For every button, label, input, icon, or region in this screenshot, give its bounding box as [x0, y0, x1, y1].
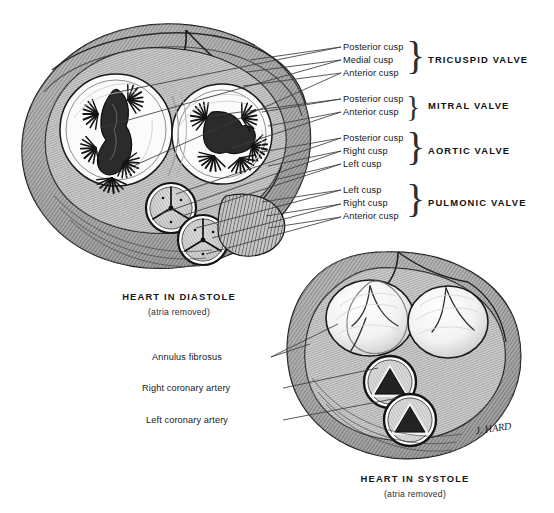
- mitral-valve-systole: [408, 286, 488, 358]
- brace-pulmonic: }: [406, 179, 425, 219]
- group-label-mitral-valve: MITRAL VALVE: [428, 100, 510, 111]
- group-label-aortic-valve: AORTIC VALVE: [428, 145, 510, 156]
- caption-diastole-subtitle: (atria removed): [54, 307, 304, 317]
- label-mitral-posterior-cusp: Posterior cusp: [343, 94, 403, 104]
- tricuspid-valve-systole: [326, 280, 414, 356]
- illustration-page: J. HARD: [0, 0, 554, 513]
- heart-valve-artwork: J. HARD: [0, 0, 554, 513]
- label-tricuspid-medial-cusp: Medial cusp: [343, 55, 393, 65]
- label-aortic-right-cusp: Right cusp: [343, 146, 388, 156]
- caption-diastole-title: HEART IN DIASTOLE: [122, 291, 236, 302]
- heart-diastole-drawing: [22, 24, 310, 268]
- brace-tricuspid: }: [406, 36, 425, 76]
- label-pulmonic-left-cusp: Left cusp: [343, 185, 381, 195]
- label-pulmonic-right-cusp: Right cusp: [343, 198, 388, 208]
- caption-heart-in-diastole: HEART IN DIASTOLE (atria removed): [54, 286, 304, 317]
- label-mitral-anterior-cusp: Anterior cusp: [343, 107, 399, 117]
- brace-aortic: }: [406, 127, 425, 167]
- label-annulus-fibrosus: Annulus fibrosus: [152, 352, 222, 362]
- label-right-coronary-artery: Right coronary artery: [142, 383, 230, 393]
- group-label-tricuspid-valve: TRICUSPID VALVE: [428, 54, 528, 65]
- heart-systole-drawing: J. HARD: [287, 252, 520, 459]
- brace-mitral: }: [406, 91, 420, 121]
- label-tricuspid-posterior-cusp: Posterior cusp: [343, 42, 403, 52]
- label-tricuspid-anterior-cusp: Anterior cusp: [343, 68, 399, 78]
- group-label-pulmonic-valve: PULMONIC VALVE: [428, 197, 527, 208]
- label-pulmonic-anterior-cusp: Anterior cusp: [343, 211, 399, 221]
- caption-systole-title: HEART IN SYSTOLE: [361, 473, 470, 484]
- label-aortic-posterior-cusp: Posterior cusp: [343, 133, 403, 143]
- label-aortic-left-cusp: Left cusp: [343, 159, 381, 169]
- caption-systole-subtitle: (atria removed): [290, 489, 540, 499]
- label-left-coronary-artery: Left coronary artery: [146, 415, 228, 425]
- caption-heart-in-systole: HEART IN SYSTOLE (atria removed): [290, 468, 540, 499]
